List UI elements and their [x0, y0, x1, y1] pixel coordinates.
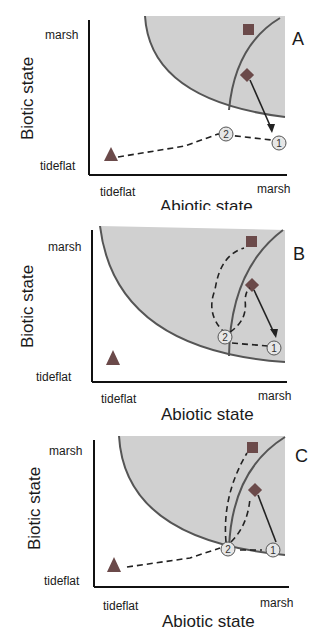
y-tick-marsh: marsh [49, 444, 82, 458]
panel-a: 2 1 marsh tideflat tideflat marsh Abioti… [0, 0, 327, 210]
node-1-label: 1 [270, 545, 276, 556]
y-tick-tideflat: tideflat [40, 159, 76, 173]
x-tick-marsh: marsh [257, 182, 290, 196]
x-axis-title: Abiotic state [160, 197, 253, 210]
square-marker [243, 24, 254, 35]
x-axis-title: Abiotic state [162, 612, 255, 631]
node-1-label: 1 [271, 343, 277, 354]
node-2-label: 2 [223, 129, 229, 140]
y-tick-tideflat: tideflat [44, 574, 80, 588]
x-tick-marsh: marsh [258, 389, 291, 403]
y-axis-title: Biotic state [25, 467, 44, 550]
panel-letter: C [295, 446, 308, 466]
node-1-label: 1 [276, 138, 282, 149]
y-axis-title: Biotic state [18, 57, 37, 140]
y-tick-marsh: marsh [48, 240, 81, 254]
x-tick-tideflat: tideflat [103, 599, 139, 613]
x-tick-tideflat: tideflat [100, 185, 136, 199]
y-axis-title: Biotic state [18, 265, 37, 348]
panel-c: 2 1 marsh tideflat tideflat marsh Abioti… [0, 420, 327, 636]
panel-b: 2 1 marsh tideflat tideflat marsh Abioti… [0, 210, 327, 420]
x-tick-marsh: marsh [260, 596, 293, 610]
node-2-label: 2 [225, 544, 231, 555]
panel-letter: B [293, 244, 305, 264]
node-2-label: 2 [222, 332, 228, 343]
x-axis-title: Abiotic state [161, 405, 254, 420]
panel-letter: A [292, 29, 304, 49]
x-tick-tideflat: tideflat [101, 392, 137, 406]
triangle-marker [104, 147, 118, 161]
y-tick-tideflat: tideflat [36, 370, 72, 384]
y-tick-marsh: marsh [45, 28, 78, 42]
